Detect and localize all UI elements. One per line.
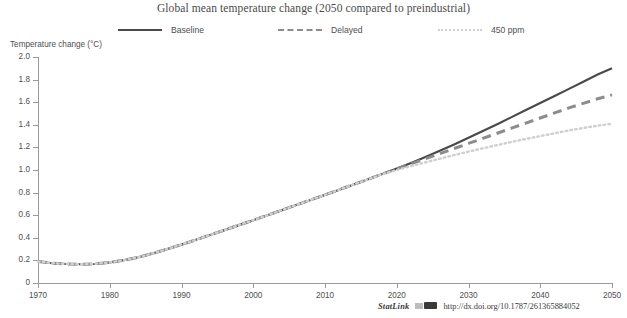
- x-tick-mark: [540, 283, 541, 288]
- y-tick-label: 1.0: [4, 165, 30, 174]
- y-tick-label: 0.4: [4, 233, 30, 242]
- plot-area: 00.20.40.60.81.01.21.41.61.82.0 19701980…: [38, 57, 612, 283]
- y-tick-label: 0: [4, 278, 30, 287]
- legend-swatch-dotted-line-icon: [438, 24, 482, 36]
- x-tick-label: 2000: [244, 291, 262, 300]
- statlink-footer: StatLink http://dx.doi.org/10.1787/26136…: [378, 299, 580, 313]
- statlink-badge-icon: [415, 302, 437, 310]
- y-tick-label: 1.2: [4, 142, 30, 151]
- y-tick-label: 2.0: [4, 52, 30, 61]
- x-tick-mark: [397, 283, 398, 288]
- statlink-label: StatLink: [378, 302, 409, 311]
- x-tick-mark: [469, 283, 470, 288]
- x-tick-label: 1970: [29, 291, 47, 300]
- series-line-delayed: [38, 95, 612, 264]
- x-tick-label: 1980: [101, 291, 119, 300]
- legend-swatch-dashed-line-icon: [278, 24, 322, 36]
- legend-label-450-ppm: 450 ppm: [491, 25, 524, 35]
- x-tick-mark: [253, 283, 254, 288]
- y-tick-label: 0.6: [4, 210, 30, 219]
- chart-container: Global mean temperature change (2050 com…: [0, 0, 627, 318]
- chart-title: Global mean temperature change (2050 com…: [0, 2, 627, 14]
- series-line-baseline: [38, 68, 612, 264]
- x-tick-label: 1990: [172, 291, 190, 300]
- legend-item-450-ppm: 450 ppm: [438, 22, 524, 38]
- x-tick-mark: [325, 283, 326, 288]
- y-tick-label: 0.8: [4, 188, 30, 197]
- legend-label-delayed: Delayed: [331, 25, 363, 35]
- chart-legend: Baseline Delayed 450 ppm: [0, 22, 627, 38]
- y-tick-label: 0.2: [4, 255, 30, 264]
- x-tick-mark: [38, 283, 39, 288]
- x-tick-label: 2010: [316, 291, 334, 300]
- series-lines: [38, 57, 612, 283]
- series-line-450-ppm: [38, 124, 612, 265]
- legend-item-baseline: Baseline: [118, 22, 204, 38]
- legend-item-delayed: Delayed: [278, 22, 363, 38]
- statlink-url[interactable]: http://dx.doi.org/10.1787/261365884052: [443, 302, 579, 311]
- legend-swatch-solid-line-icon: [118, 24, 162, 36]
- x-tick-mark: [182, 283, 183, 288]
- legend-label-baseline: Baseline: [171, 25, 204, 35]
- y-axis-title: Temperature change (°C): [10, 40, 102, 49]
- y-tick-label: 1.4: [4, 120, 30, 129]
- x-tick-label: 2050: [603, 291, 621, 300]
- y-tick-label: 1.8: [4, 75, 30, 84]
- x-tick-mark: [110, 283, 111, 288]
- x-tick-mark: [612, 283, 613, 288]
- y-tick-label: 1.6: [4, 97, 30, 106]
